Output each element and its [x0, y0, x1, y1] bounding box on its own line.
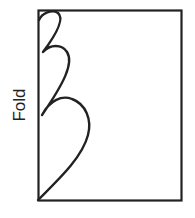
- cut-line-curve: [38, 11, 89, 200]
- paper-rectangle: [39, 11, 182, 201]
- fold-label: Fold: [10, 88, 30, 121]
